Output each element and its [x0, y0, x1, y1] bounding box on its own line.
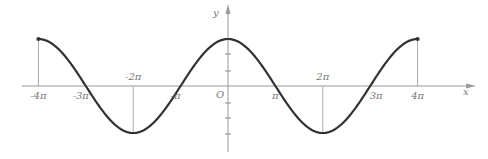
- x-tick-label: 3π: [370, 90, 383, 101]
- x-tick-label: -4π: [30, 90, 47, 101]
- axes: [22, 4, 476, 152]
- x-tick-label: -π: [171, 90, 181, 101]
- y-axis-label: y: [212, 7, 219, 18]
- x-tick-label: -3π: [73, 90, 90, 101]
- x-axis-label: x: [463, 86, 469, 97]
- x-tick-label: π: [271, 90, 279, 101]
- origin-label: O: [216, 89, 224, 100]
- x-tick-label: 2π: [315, 71, 329, 82]
- x-tick-label: -2π: [125, 71, 142, 82]
- cosine-chart: -4π-3π-2π-ππ2π3π4π x y O: [0, 0, 488, 159]
- endpoint-dot: [36, 37, 40, 41]
- y-axis-arrow-icon: [226, 4, 231, 14]
- x-tick-label: 4π: [410, 90, 424, 101]
- endpoint-dot: [416, 37, 420, 41]
